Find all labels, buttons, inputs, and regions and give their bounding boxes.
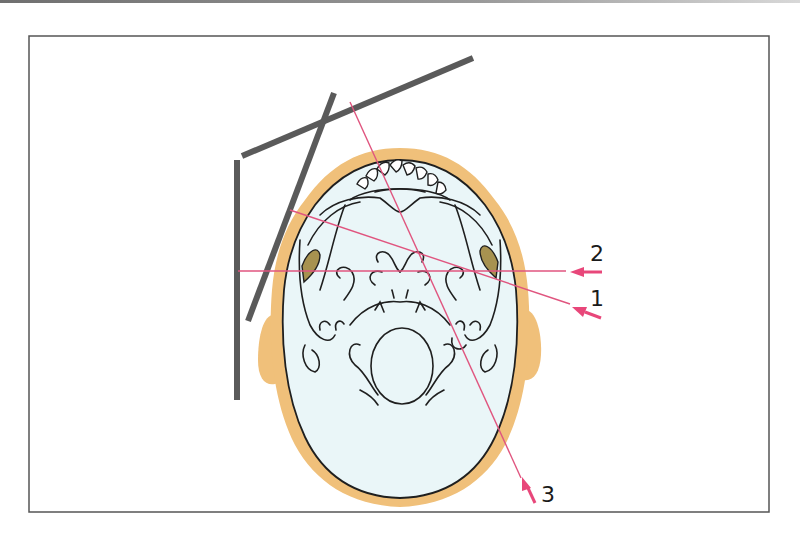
figure-container: 2 1 3: [0, 0, 800, 540]
beam-2-label: 2: [590, 241, 604, 266]
skull-diagram: 2 1 3: [0, 0, 800, 540]
film-plate-top: [242, 58, 473, 156]
beam-2-arrow: [570, 267, 602, 277]
beam-3-label: 3: [541, 482, 555, 507]
beam-3-arrow: [522, 477, 535, 503]
beam-1-label: 1: [590, 286, 604, 311]
